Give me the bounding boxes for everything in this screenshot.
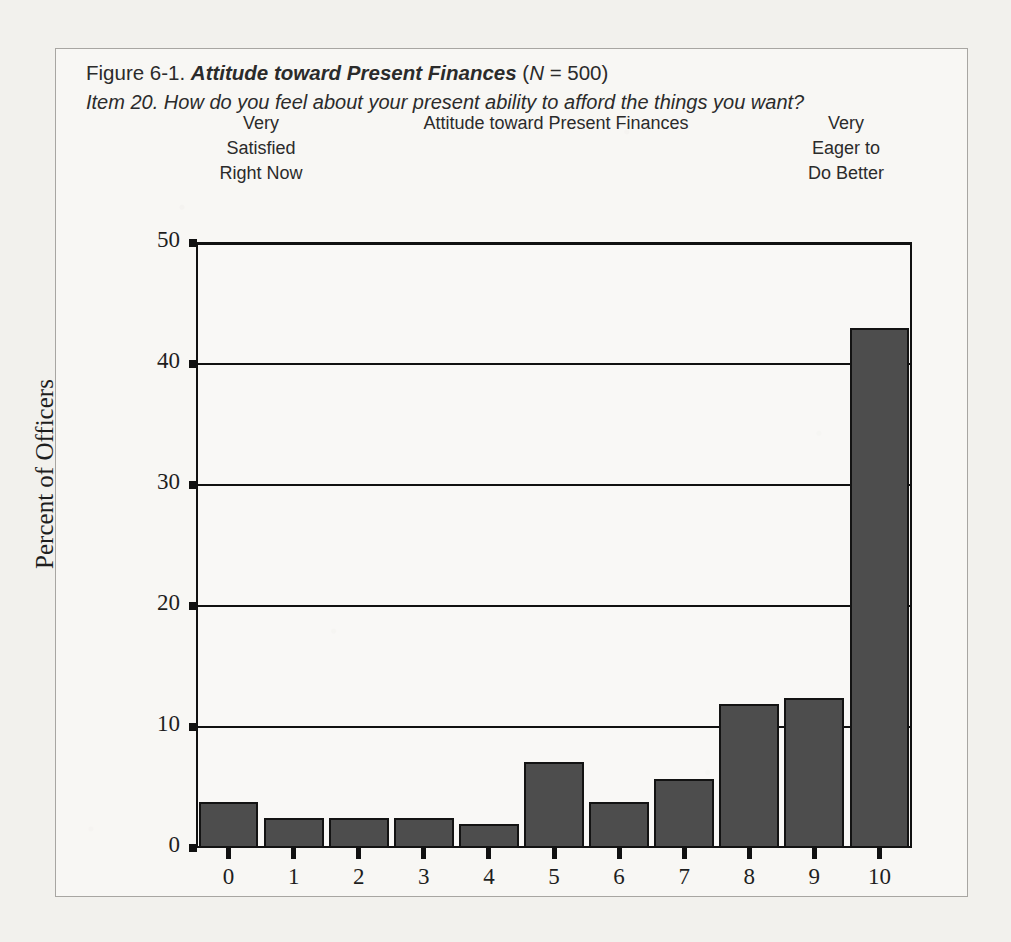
- scale-label-right-line1: Very: [756, 111, 936, 136]
- scale-anchor-labels: Very Satisfied Right Now Attitude toward…: [56, 111, 969, 201]
- scale-label-left: Very Satisfied Right Now: [176, 111, 346, 186]
- caption-line-1: Figure 6-1. Attitude toward Present Fina…: [86, 59, 946, 87]
- scale-label-left-line2: Satisfied: [176, 136, 346, 161]
- scale-label-center: Attitude toward Present Finances: [356, 111, 756, 136]
- scale-label-right: Very Eager to Do Better: [756, 111, 936, 186]
- scale-label-left-line1: Very: [176, 111, 346, 136]
- figure-caption: Figure 6-1. Attitude toward Present Fina…: [86, 59, 946, 116]
- caption-n-open: (: [517, 61, 530, 84]
- figure-container: Figure 6-1. Attitude toward Present Fina…: [55, 48, 968, 897]
- caption-n-symbol: N: [529, 61, 544, 84]
- caption-n-value: = 500): [544, 61, 608, 84]
- scale-label-left-line3: Right Now: [176, 161, 346, 186]
- caption-title: Attitude toward Present Finances: [191, 61, 517, 84]
- scale-label-right-line2: Eager to: [756, 136, 936, 161]
- caption-prefix: Figure 6-1.: [86, 61, 191, 84]
- scale-label-right-line3: Do Better: [756, 161, 936, 186]
